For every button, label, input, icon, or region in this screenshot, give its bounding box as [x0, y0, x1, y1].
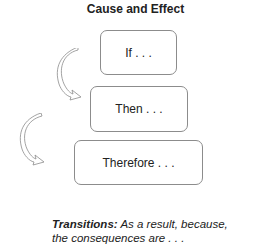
caption-line2: the consequences are . . . — [52, 231, 228, 245]
step-therefore-box: Therefore . . . — [74, 140, 203, 185]
curved-arrow-icon — [18, 113, 48, 168]
caption-heading: Transitions: — [52, 218, 118, 230]
step-label: Then . . . — [115, 102, 162, 116]
step-label: If . . . — [125, 46, 152, 60]
transitions-caption: Transitions: As a result, because, the c… — [52, 217, 228, 245]
diagram-title: Cause and Effect — [0, 2, 271, 16]
caption-line1: As a result, because, — [118, 218, 228, 230]
step-label: Therefore . . . — [102, 156, 174, 170]
step-then-box: Then . . . — [90, 86, 188, 132]
curved-arrow-icon — [56, 48, 86, 103]
step-if-box: If . . . — [100, 30, 177, 75]
